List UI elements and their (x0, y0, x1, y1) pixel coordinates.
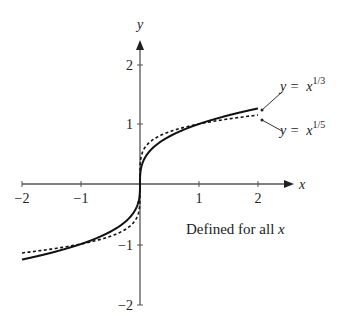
annotation-defined-for-all-x: Defined for all x (186, 221, 285, 237)
y-tick-label-2: 2 (126, 58, 133, 73)
x-tick-label-neg1: −1 (74, 191, 89, 206)
y-axis-arrow-icon (136, 40, 144, 50)
x-tick-label-2: 2 (255, 191, 262, 206)
y-tick-label-neg2: −2 (118, 298, 133, 313)
leader-dot-cube (261, 109, 264, 112)
legend-fifth-root: y = x1/5 (278, 119, 325, 138)
y-tick-label-neg1: −1 (118, 238, 133, 253)
x-axis-arrow-icon (284, 180, 294, 188)
leader-dot-fifth (261, 119, 264, 122)
x-axis-label: x (298, 177, 306, 192)
legend-cube-root: y = x1/3 (278, 75, 325, 94)
leader-line-fifth (262, 120, 282, 131)
y-tick-label-1: 1 (126, 117, 133, 132)
leader-line-cube (262, 92, 282, 110)
y-axis-label: y (135, 17, 144, 32)
root-chart-graph: −2 −1 1 2 2 1 −1 −2 x y y = x1/3 y = x1/… (0, 0, 342, 332)
x-tick-label-1: 1 (196, 191, 203, 206)
x-tick-label-neg2: −2 (15, 191, 30, 206)
